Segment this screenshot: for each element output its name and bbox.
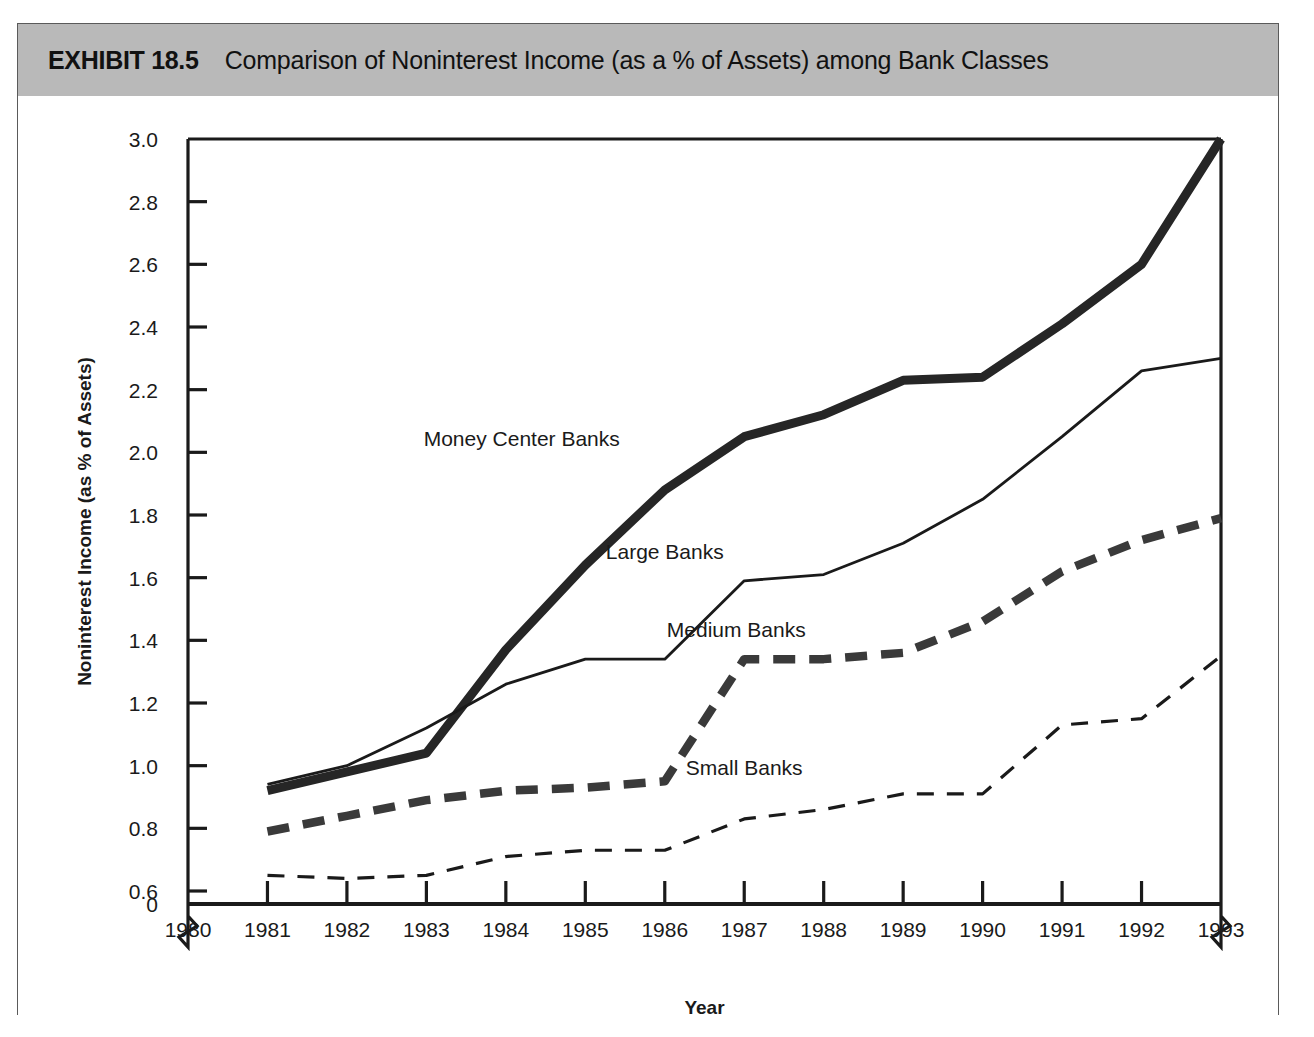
exhibit-header: EXHIBIT 18.5 Comparison of Noninterest I…	[18, 24, 1278, 96]
y-tick-label: 2.2	[129, 379, 158, 402]
x-tick-label: 1989	[880, 918, 927, 941]
x-tick-label: 1984	[482, 918, 529, 941]
x-tick-label: 1982	[324, 918, 371, 941]
x-tick-label: 1988	[800, 918, 847, 941]
y-axis-ticks: 00.60.81.01.21.41.61.82.02.22.42.62.83.0	[129, 128, 207, 916]
exhibit-number: EXHIBIT 18.5	[48, 46, 199, 75]
line-chart: 00.60.81.01.21.41.61.82.02.22.42.62.83.0…	[18, 96, 1278, 1016]
x-tick-label: 1990	[959, 918, 1006, 941]
y-axis-line-right	[1212, 139, 1230, 947]
chart-area: 00.60.81.01.21.41.61.82.02.22.42.62.83.0…	[18, 96, 1278, 1016]
series-label-money-center-banks: Money Center Banks	[424, 427, 620, 450]
y-tick-label: 2.4	[129, 316, 159, 339]
x-axis-ticks: 1980198119821983198419851986198719881989…	[165, 881, 1245, 941]
y-tick-label: 1.4	[129, 629, 159, 652]
y-tick-label: 2.8	[129, 191, 158, 214]
series-labels: Money Center BanksLarge BanksMedium Bank…	[424, 427, 806, 779]
y-tick-label: 1.2	[129, 692, 158, 715]
series-label-medium-banks: Medium Banks	[667, 618, 806, 641]
exhibit-frame: EXHIBIT 18.5 Comparison of Noninterest I…	[17, 23, 1279, 1015]
y-tick-label: 1.6	[129, 567, 158, 590]
x-tick-label: 1985	[562, 918, 609, 941]
x-tick-label: 1981	[244, 918, 291, 941]
series-line-medium-banks	[267, 518, 1221, 831]
y-tick-label: 0.6	[129, 880, 158, 903]
series-line-money-center-banks	[267, 139, 1221, 791]
series-label-large-banks: Large Banks	[606, 540, 724, 563]
y-axis-title: Noninterest Income (as % of Assets)	[74, 357, 95, 686]
series-line-large-banks	[267, 358, 1221, 784]
y-tick-label: 0.8	[129, 817, 158, 840]
x-tick-label: 1986	[641, 918, 688, 941]
y-tick-label: 3.0	[129, 128, 158, 151]
series-label-small-banks: Small Banks	[686, 756, 803, 779]
exhibit-title: Comparison of Noninterest Income (as a %…	[225, 46, 1049, 75]
y-axis-line-left	[179, 139, 197, 947]
x-tick-label: 1991	[1039, 918, 1086, 941]
x-tick-label: 1992	[1118, 918, 1165, 941]
x-axis-title: Year	[684, 997, 725, 1016]
y-tick-label: 1.0	[129, 755, 158, 778]
x-tick-label: 1987	[721, 918, 768, 941]
y-tick-label: 2.6	[129, 253, 158, 276]
y-tick-label: 1.8	[129, 504, 158, 527]
y-tick-label: 2.0	[129, 441, 158, 464]
x-tick-label: 1983	[403, 918, 450, 941]
